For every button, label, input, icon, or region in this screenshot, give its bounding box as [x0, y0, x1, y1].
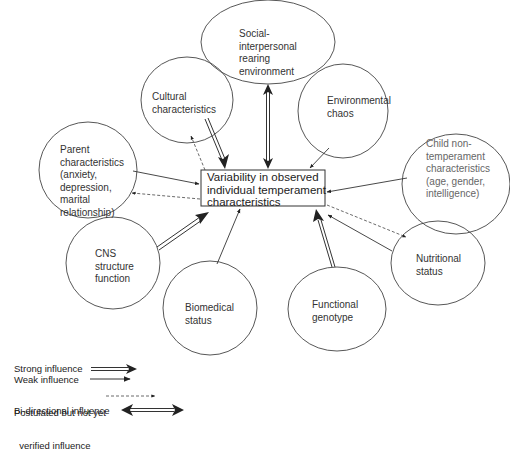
arrow-genotype-strong: [313, 209, 335, 267]
node-parent-label: Parent characteristics (anxiety, depress…: [60, 144, 124, 219]
arrow-cultural-postulated: [191, 136, 205, 170]
legend-strong-label: Strong influence: [14, 363, 83, 374]
node-cns-label: CNS structure function: [95, 248, 134, 286]
node-nutritional-label: Nutritional status: [416, 253, 461, 278]
node-environmental-label: Environmental chaos: [327, 95, 391, 120]
node-biomedical-label: Biomedical status: [185, 302, 234, 327]
legend-strong-arrow: [91, 364, 137, 374]
legend-bidirectional-arrow: [121, 404, 184, 416]
legend-bidirectional-label: Bi-directional influence: [14, 405, 110, 416]
node-child-label: Child non- temperament characteristics (…: [426, 138, 490, 201]
arrow-child-weak: [327, 178, 407, 192]
center-label: Variability in observed individual tempe…: [207, 171, 326, 209]
arrow-parent-postulated: [132, 193, 200, 199]
arrow-biomedical-weak: [217, 209, 240, 264]
arrow-social-bidirectional: [263, 84, 273, 169]
arrow-parent-weak: [133, 171, 199, 184]
node-cultural-label: Cultural characteristics: [152, 91, 216, 116]
arrow-nutritional-weak: [328, 215, 392, 251]
legend-weak-label: Weak influence: [14, 374, 79, 385]
arrow-cns-strong: [157, 212, 209, 250]
legend-postulated-label: Postulated but not yet verified influenc…: [14, 385, 106, 453]
arrow-cultural-strong: [205, 118, 229, 169]
node-genotype-label: Functional genotype: [312, 299, 358, 324]
node-social-label: Social- interpersonal rearing environmen…: [239, 28, 297, 78]
